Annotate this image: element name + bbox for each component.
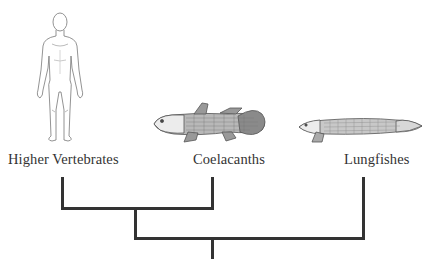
taxon-label-coelacanths: Coelacanths [193,151,265,168]
human-figure-illustration [30,10,90,144]
branch-lungfishes [362,177,365,240]
branch-inner-clade [134,207,137,240]
node-bar-root [134,237,365,240]
branch-coelacanths [211,177,214,210]
root-stem [211,237,214,259]
node-bar-inner [61,207,214,210]
lungfish-illustration [296,112,426,146]
coelacanth-illustration [150,100,270,145]
taxon-label-lungfishes: Lungfishes [344,151,409,168]
taxon-label-higher-vertebrates: Higher Vertebrates [8,151,119,168]
branch-higher-vertebrates [61,177,64,210]
